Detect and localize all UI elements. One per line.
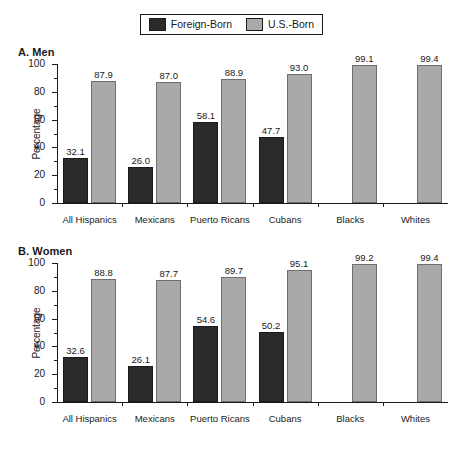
bar-value-label: 95.1 <box>290 258 309 269</box>
bar-value-label: 32.1 <box>66 146 85 157</box>
y-axis-tick: 100 <box>52 263 57 264</box>
bar-value-label: 47.7 <box>262 125 281 136</box>
panel-title-women: B. Women <box>18 245 72 257</box>
bar-value-label: 87.7 <box>160 268 179 279</box>
y-axis-tick: 60 <box>52 319 57 320</box>
bar-value-label: 99.4 <box>420 53 439 64</box>
bar-foreign-born-mexicans: 26.1 <box>128 366 153 402</box>
y-axis-tick: 20 <box>52 374 57 375</box>
y-axis-tick-label: 80 <box>34 284 45 297</box>
bar-u-s-born-blacks: 99.2 <box>352 264 377 402</box>
bar-value-label: 93.0 <box>290 62 309 73</box>
bar-value-label: 99.1 <box>355 53 374 64</box>
bar-value-label: 26.1 <box>132 354 151 365</box>
bar-u-s-born-whites: 99.4 <box>417 264 442 402</box>
y-axis-tick-label: 0 <box>39 395 45 408</box>
plot-area-men: Percentage 020406080100 32.187.926.087.0… <box>57 64 448 203</box>
x-axis-category-label: Blacks <box>336 214 364 226</box>
bar-u-s-born-all-hispanics: 88.8 <box>91 279 116 402</box>
chart-legend: Foreign-Born U.S.-Born <box>0 14 463 35</box>
y-axis-tick: 0 <box>52 203 57 204</box>
y-axis-tick: 20 <box>52 175 57 176</box>
y-axis-minor-tick <box>54 78 57 79</box>
dark-square-icon <box>149 18 166 31</box>
y-axis-minor-tick <box>54 305 57 306</box>
bar-u-s-born-all-hispanics: 87.9 <box>91 81 116 203</box>
bar-value-label: 50.2 <box>262 320 281 331</box>
x-axis-category-label: Puerto Ricans <box>190 214 250 226</box>
bar-u-s-born-blacks: 99.1 <box>352 65 377 203</box>
bar-foreign-born-all-hispanics: 32.1 <box>63 158 88 203</box>
y-axis-tick: 60 <box>52 120 57 121</box>
x-axis-group-separator <box>122 203 123 207</box>
x-axis-group-separator <box>253 402 254 406</box>
y-axis-tick-label: 20 <box>34 168 45 181</box>
x-axis-group-separator <box>318 402 319 406</box>
y-axis-tick-label: 60 <box>34 113 45 126</box>
bar-u-s-born-whites: 99.4 <box>417 65 442 203</box>
y-axis-tick: 40 <box>52 346 57 347</box>
legend-entry-us-born: U.S.-Born <box>246 18 314 31</box>
bar-value-label: 54.6 <box>197 314 216 325</box>
bar-value-label: 99.4 <box>420 252 439 263</box>
legend-label-us-born: U.S.-Born <box>268 19 314 30</box>
y-axis-minor-tick <box>54 360 57 361</box>
bar-value-label: 58.1 <box>197 110 216 121</box>
y-axis-tick-label: 40 <box>34 339 45 352</box>
x-axis-category-label: All Hispanics <box>62 413 116 425</box>
bar-foreign-born-puerto-ricans: 54.6 <box>193 326 218 402</box>
y-axis-tick: 80 <box>52 291 57 292</box>
y-axis-tick-label: 100 <box>28 57 45 70</box>
x-axis-category-label: Cubans <box>269 413 302 425</box>
y-axis-minor-tick <box>54 388 57 389</box>
bar-value-label: 87.0 <box>160 70 179 81</box>
bar-u-s-born-cubans: 95.1 <box>287 270 312 402</box>
x-axis-group-separator <box>122 402 123 406</box>
x-axis-group-separator <box>318 203 319 207</box>
bar-u-s-born-cubans: 93.0 <box>287 74 312 203</box>
bar-foreign-born-mexicans: 26.0 <box>128 167 153 203</box>
x-axis-category-label: Mexicans <box>135 413 175 425</box>
bar-u-s-born-mexicans: 87.7 <box>156 280 181 402</box>
x-axis-group-separator <box>187 203 188 207</box>
bar-value-label: 88.8 <box>94 267 113 278</box>
y-axis-minor-tick <box>54 134 57 135</box>
y-axis-tick-label: 60 <box>34 312 45 325</box>
y-axis-tick: 0 <box>52 402 57 403</box>
bar-u-s-born-puerto-ricans: 89.7 <box>221 277 246 402</box>
legend-label-foreign-born: Foreign-Born <box>171 19 232 30</box>
bar-value-label: 89.7 <box>225 265 244 276</box>
y-axis-minor-tick <box>54 106 57 107</box>
legend-box: Foreign-Born U.S.-Born <box>140 14 323 35</box>
y-axis-line <box>57 64 58 203</box>
y-axis-minor-tick <box>54 189 57 190</box>
bar-u-s-born-mexicans: 87.0 <box>156 82 181 203</box>
y-axis-tick: 100 <box>52 64 57 65</box>
y-axis-tick-label: 20 <box>34 367 45 380</box>
y-axis-tick-label: 100 <box>28 256 45 269</box>
x-axis-group-separator <box>383 203 384 207</box>
y-axis-minor-tick <box>54 333 57 334</box>
bar-foreign-born-cubans: 47.7 <box>259 137 284 203</box>
x-axis-category-label: All Hispanics <box>62 214 116 226</box>
y-axis-line <box>57 263 58 402</box>
light-square-icon <box>246 18 263 31</box>
x-axis-category-label: Puerto Ricans <box>190 413 250 425</box>
x-axis-category-label: Mexicans <box>135 214 175 226</box>
y-axis-tick: 40 <box>52 147 57 148</box>
y-axis-tick-label: 80 <box>34 85 45 98</box>
y-axis-tick-label: 40 <box>34 140 45 153</box>
plot-area-women: Percentage 020406080100 32.688.826.187.7… <box>57 263 448 402</box>
x-axis-category-label: Whites <box>401 214 430 226</box>
y-axis-tick: 80 <box>52 92 57 93</box>
y-axis-minor-tick <box>54 161 57 162</box>
x-axis-group-separator <box>187 402 188 406</box>
y-axis-minor-tick <box>54 277 57 278</box>
bar-foreign-born-cubans: 50.2 <box>259 332 284 402</box>
x-axis-category-label: Whites <box>401 413 430 425</box>
bar-value-label: 32.6 <box>66 345 85 356</box>
x-axis-group-separator <box>383 402 384 406</box>
bar-value-label: 26.0 <box>132 155 151 166</box>
y-axis-tick-label: 0 <box>39 196 45 209</box>
x-axis-category-label: Blacks <box>336 413 364 425</box>
